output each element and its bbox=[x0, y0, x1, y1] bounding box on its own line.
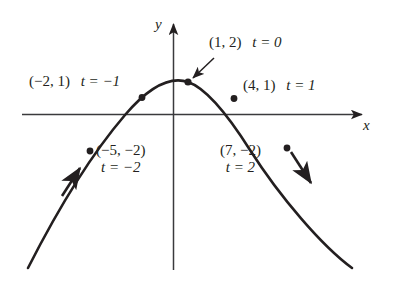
annotation-left-upper-point: (−2, 1) bbox=[29, 73, 70, 89]
annotation-vertex: (1, 2) t = 0 bbox=[209, 34, 282, 51]
annotation-vertex-t: t = 0 bbox=[252, 34, 281, 50]
point-t-1 bbox=[231, 95, 238, 102]
annotation-left-upper-t: t = −1 bbox=[81, 73, 120, 89]
annotation-right-upper-t: t = 1 bbox=[286, 77, 315, 93]
annotation-left-lower-t: t = −2 bbox=[96, 159, 145, 176]
vertex-leader-arrow bbox=[193, 58, 214, 78]
direction-arrow-right bbox=[291, 152, 311, 183]
annotation-right-upper: (4, 1) t = 1 bbox=[243, 77, 316, 94]
point-t-0 bbox=[184, 78, 191, 85]
annotation-right-lower: (7, −2) t = 2 bbox=[220, 142, 261, 176]
point-t-neg1 bbox=[139, 94, 146, 101]
annotation-right-lower-t: t = 2 bbox=[220, 159, 261, 176]
y-axis-label: y bbox=[155, 16, 162, 33]
annotation-left-lower: (−5, −2) t = −2 bbox=[96, 142, 145, 176]
point-t-2 bbox=[284, 145, 291, 152]
x-axis-label: x bbox=[363, 117, 370, 134]
figure-canvas: y x (1, 2) t = 0 (−2, 1) t = −1 (4, 1) t… bbox=[0, 0, 397, 282]
annotation-right-upper-point: (4, 1) bbox=[243, 77, 276, 93]
parametric-curve-plot bbox=[0, 0, 397, 282]
point-t-neg2 bbox=[87, 148, 94, 155]
annotation-right-lower-point: (7, −2) bbox=[220, 142, 261, 158]
annotation-vertex-point: (1, 2) bbox=[209, 34, 242, 50]
annotation-left-lower-point: (−5, −2) bbox=[96, 142, 145, 158]
annotation-left-upper: (−2, 1) t = −1 bbox=[29, 73, 120, 90]
